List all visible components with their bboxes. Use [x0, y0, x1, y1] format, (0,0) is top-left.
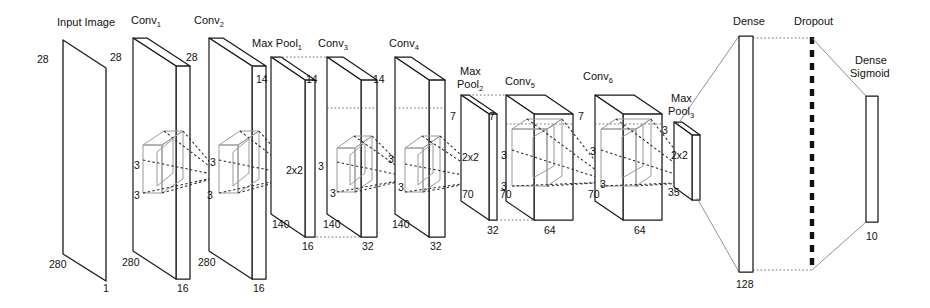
- dim-maxpool2-width: 70: [462, 188, 474, 200]
- label-maxpool1: Max Pool1: [252, 37, 302, 52]
- cnn-architecture-diagram: Input Image Conv1 Conv2 Max Pool1 Conv3 …: [0, 0, 930, 308]
- dim-conv2-width: 280: [198, 256, 216, 268]
- dim-maxpool1-depth: 16: [302, 240, 314, 252]
- dim-maxpool1-width: 140: [272, 218, 290, 230]
- dim-conv6-kernel-h: 3: [590, 145, 596, 157]
- layer-dense: [739, 36, 812, 272]
- dim-conv4-height: 14: [373, 73, 385, 85]
- dim-maxpool3-width: 35: [668, 186, 680, 198]
- dim-conv4-width: 140: [392, 218, 410, 230]
- label-dense: Dense: [733, 15, 765, 27]
- conv4-front-face: [429, 80, 445, 237]
- label-dense-sigmoid-line1: Dense: [855, 54, 887, 66]
- dim-maxpool2-kernel: 2x2: [462, 151, 479, 163]
- dim-conv3-kernel-w: 3: [330, 187, 336, 199]
- dim-conv6-width: 70: [588, 188, 600, 200]
- conv5-back-plane: [506, 95, 534, 220]
- conv3-front-face: [361, 80, 377, 237]
- dim-input-depth: 1: [103, 282, 109, 294]
- dim-conv2-depth: 16: [253, 282, 265, 294]
- diagram-canvas: Input Image Conv1 Conv2 Max Pool1 Conv3 …: [0, 0, 930, 308]
- maxpool2-front-face: [489, 114, 497, 220]
- dim-maxpool3-kernel: 2x2: [671, 149, 688, 161]
- dim-conv5-depth: 64: [544, 224, 556, 236]
- label-conv6: Conv6: [583, 70, 613, 85]
- dim-maxpool3-height: 3: [662, 124, 668, 136]
- dim-maxpool2-depth: 32: [487, 224, 499, 236]
- label-dense-sigmoid-line2: Sigmoid: [850, 67, 890, 79]
- dim-conv1-kernel-h: 3: [134, 159, 140, 171]
- label-conv2: Conv2: [194, 14, 224, 29]
- label-conv5: Conv5: [505, 75, 535, 90]
- input-image-plane: [63, 40, 106, 281]
- dim-conv1-depth: 16: [177, 282, 189, 294]
- dim-conv6-kernel-w: 3: [600, 178, 606, 190]
- dim-conv2-height: 28: [186, 51, 198, 63]
- dim-conv5-kernel-h: 3: [501, 149, 507, 161]
- dim-conv3-kernel-h: 3: [318, 160, 324, 172]
- dim-conv3-depth: 32: [362, 240, 374, 252]
- dim-conv4-kernel-h: 3: [388, 153, 394, 165]
- maxpool3-front-face: [692, 135, 700, 200]
- label-conv1: Conv1: [131, 14, 161, 29]
- dim-conv1-width: 280: [122, 256, 140, 268]
- dim-maxpool1-height: 14: [256, 73, 268, 85]
- dim-dense-units: 128: [736, 278, 754, 290]
- dense-bar: [739, 36, 753, 272]
- dim-maxpool2-height: 7: [450, 110, 456, 122]
- dim-conv2-kernel-w: 3: [207, 189, 213, 201]
- conv6-back-plane: [595, 95, 623, 220]
- dim-conv1-kernel-w: 3: [134, 189, 140, 201]
- dim-conv4-kernel-w: 3: [398, 181, 404, 193]
- label-maxpool3-line2: Pool3: [668, 105, 694, 120]
- dim-input-width: 280: [49, 258, 67, 270]
- dim-conv5-width: 70: [500, 188, 512, 200]
- dim-conv5-height: 7: [489, 110, 495, 122]
- label-maxpool2-line2: Pool2: [457, 78, 483, 93]
- dim-conv1-height: 28: [110, 51, 122, 63]
- label-maxpool2-line1: Max: [460, 65, 481, 77]
- dim-maxpool1-kernel: 2x2: [286, 164, 303, 176]
- dense-sigmoid-bar: [866, 96, 878, 222]
- dim-conv2-kernel-h: 3: [210, 156, 216, 168]
- dim-input-height: 28: [37, 53, 49, 65]
- layer-input-image: [63, 40, 106, 281]
- dim-conv4-depth: 32: [430, 240, 442, 252]
- dim-conv6-height: 7: [578, 110, 584, 122]
- label-input-image: Input Image: [57, 16, 115, 28]
- layer-dense-sigmoid: [866, 96, 878, 222]
- maxpool1-front-face: [305, 80, 315, 237]
- label-conv3: Conv3: [318, 37, 348, 52]
- label-dropout: Dropout: [794, 15, 833, 27]
- dim-conv3-height: 14: [306, 73, 318, 85]
- dim-conv3-width: 140: [323, 218, 341, 230]
- dim-conv6-depth: 64: [634, 224, 646, 236]
- maxpool1-back-plane: [271, 57, 305, 237]
- label-maxpool3-line1: Max: [671, 92, 692, 104]
- label-conv4: Conv4: [389, 37, 419, 52]
- dim-sigmoid-units: 10: [866, 230, 878, 242]
